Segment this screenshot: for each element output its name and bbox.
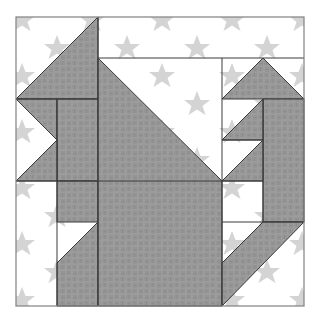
tail-column [263, 99, 304, 222]
cat-leg-column [57, 181, 98, 222]
cat-neck-column [57, 99, 98, 181]
quilt-block [0, 0, 319, 321]
